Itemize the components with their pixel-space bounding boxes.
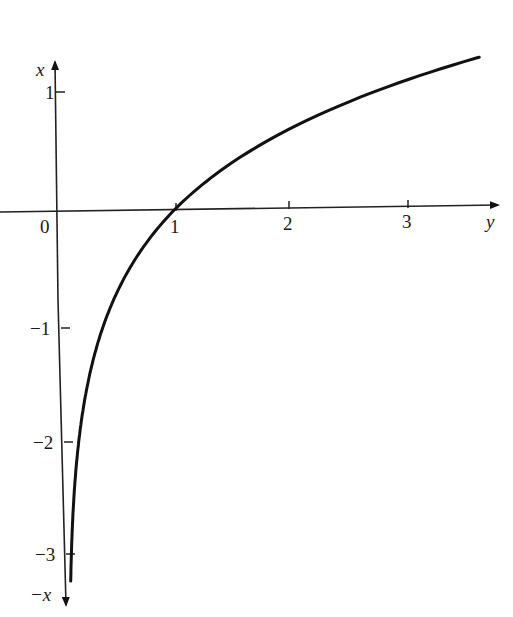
chart-canvas [0,0,513,617]
vertical-axis-down [58,300,66,605]
tick-label-v-1: 1 [45,83,55,102]
tick-label-h-1: 1 [170,217,180,236]
tick-label-v-m3: −3 [35,545,55,564]
tick-label-h-3: 3 [402,212,412,231]
origin-label: 0 [40,217,50,236]
vertical-axis-up [55,62,58,300]
tick-label-v-m1: −1 [30,319,50,338]
ln-curve [71,57,480,581]
horizontal-axis-label: y [486,212,494,231]
vertical-axis-neg-label: −x [30,585,51,604]
tick-label-v-m2: −2 [33,433,53,452]
tick-label-h-2: 2 [283,214,293,233]
vertical-axis-label: x [36,60,44,79]
horizontal-axis [0,205,498,212]
